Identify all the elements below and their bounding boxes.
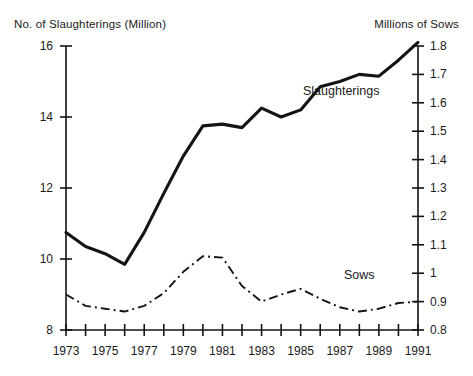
- chart-figure: No. of Slaughterings (Million) Millions …: [0, 0, 473, 376]
- right-axis-tick-label: 1.3: [430, 181, 447, 195]
- right-axis-tick-label: 1.8: [430, 39, 447, 53]
- right-axis-tick-label: 1.4: [430, 153, 447, 167]
- right-axis-tick-label: 0.8: [430, 323, 447, 337]
- right-axis-tick-label: 1: [430, 266, 437, 280]
- x-axis-tick-label: 1991: [405, 344, 432, 358]
- x-axis-tick-label: 1975: [92, 344, 119, 358]
- x-axis-tick-label: 1985: [287, 344, 314, 358]
- left-axis-tick-label: 14: [0, 110, 53, 124]
- x-axis-tick-label: 1987: [326, 344, 353, 358]
- x-axis-tick-label: 1977: [131, 344, 158, 358]
- x-axis-tick-label: 1981: [209, 344, 236, 358]
- x-axis-tick-label: 1983: [248, 344, 275, 358]
- x-axis-tick-label: 1989: [366, 344, 393, 358]
- series-line-slaughterings: [66, 42, 418, 264]
- left-axis-tick-label: 8: [0, 323, 53, 337]
- right-axis-tick-label: 0.9: [430, 295, 447, 309]
- right-axis-tick-label: 1.7: [430, 67, 447, 81]
- left-axis-tick-label: 10: [0, 252, 53, 266]
- plot-area: [0, 0, 473, 376]
- right-axis-tick-label: 1.6: [430, 96, 447, 110]
- x-axis-tick-label: 1979: [170, 344, 197, 358]
- left-axis-tick-label: 12: [0, 181, 53, 195]
- series-label-sows: Sows: [344, 268, 375, 282]
- right-axis-tick-label: 1.2: [430, 209, 447, 223]
- series-line-sows: [66, 256, 418, 311]
- right-axis-tick-label: 1.5: [430, 124, 447, 138]
- left-axis-tick-label: 16: [0, 39, 53, 53]
- right-axis-tick-label: 1.1: [430, 238, 447, 252]
- x-axis-tick-label: 1973: [53, 344, 80, 358]
- series-label-slaughterings: Slaughterings: [303, 84, 379, 98]
